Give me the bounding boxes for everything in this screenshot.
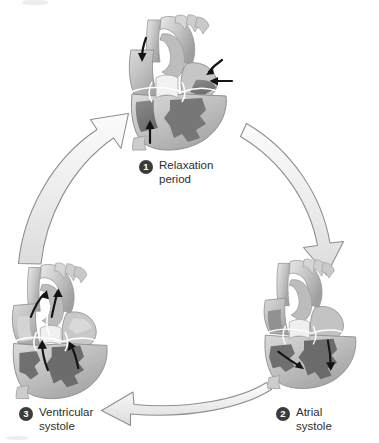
stage-label-line1-3: Ventricular bbox=[39, 406, 93, 418]
stage-label-text-2: Atrial systole bbox=[296, 406, 332, 433]
stage-label-atrial-systole: 2 Atrial systole bbox=[276, 406, 332, 433]
stage-label-line2-2: systole bbox=[296, 420, 332, 434]
cardiac-cycle-figure: 1 Relaxation period 2 Atrial systole 3 V… bbox=[0, 0, 379, 443]
stage-label-line2-3: systole bbox=[39, 420, 93, 434]
stage-label-text-1: Relaxation period bbox=[159, 159, 213, 186]
stage-label-line2-1: period bbox=[159, 173, 213, 187]
stage-label-text-3: Ventricular systole bbox=[39, 406, 93, 433]
stage-badge-3: 3 bbox=[19, 407, 33, 421]
stage-label-line1-1: Relaxation bbox=[159, 159, 213, 171]
stage-badge-2: 2 bbox=[276, 407, 290, 421]
stage-label-ventricular-systole: 3 Ventricular systole bbox=[19, 406, 93, 433]
stage-badge-1: 1 bbox=[139, 160, 153, 174]
heart-ventricular-systole-image bbox=[0, 0, 379, 443]
stage-label-relaxation-period: 1 Relaxation period bbox=[139, 159, 213, 186]
stage-label-line1-2: Atrial bbox=[296, 406, 322, 418]
